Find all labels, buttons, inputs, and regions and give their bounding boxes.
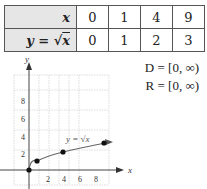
cell-y-0: 0 [77,29,109,52]
cell-x-1: 1 [109,6,141,29]
y-axis-label: y [24,58,29,64]
row-header-y: y = √x [5,29,77,52]
x-axis-arrow-icon [116,167,124,173]
point-9-3 [101,140,106,145]
x-tick: 2 [46,175,50,184]
x-axis-label: x [127,165,132,175]
range-label: R = [0, ∞) [146,78,199,94]
y-tick: 8 [21,97,25,106]
x-tick: 8 [94,175,98,184]
table-row-y: y = √x 0 1 2 3 [5,29,205,52]
sqrt-graph: x y 2 4 6 8 2 4 6 8 y = √x [0,58,140,189]
y-tick: 2 [21,150,25,159]
y-tick: 6 [21,115,25,124]
sqrt-curve [29,142,110,170]
x-tick: 6 [78,175,82,184]
point-0-0 [26,167,31,172]
y-tick: 4 [21,133,25,142]
table-row-x: x 0 1 4 9 [5,6,205,29]
values-table: x 0 1 4 9 y = √x 0 1 2 3 [4,5,205,52]
cell-x-0: 0 [77,6,109,29]
cell-y-2: 2 [141,29,173,52]
point-1-1 [34,158,39,163]
cell-x-3: 9 [173,6,205,29]
point-4-2 [60,149,65,154]
row-header-y-prefix: y = √ [26,33,62,48]
curve-label: y = √x [65,134,90,144]
cell-y-3: 3 [173,29,205,52]
domain-label: D = [0, ∞) [145,60,199,76]
row-header-x: x [5,6,77,29]
x-tick: 4 [62,175,66,184]
cell-y-1: 1 [109,29,141,52]
row-header-y-radicand: x [62,33,70,48]
cell-x-2: 4 [141,6,173,29]
